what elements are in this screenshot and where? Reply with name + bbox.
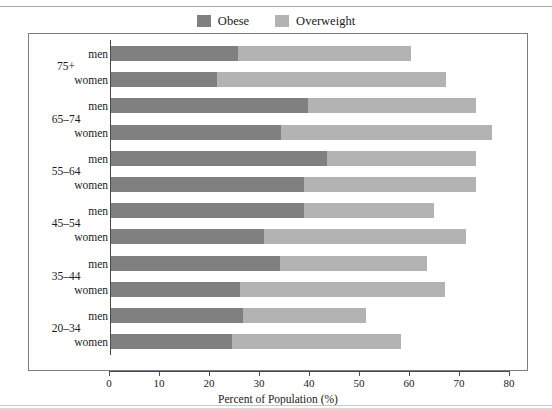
legend-label-overweight: Overweight: [296, 15, 355, 28]
row-label-women: women: [38, 127, 108, 139]
bar-segment-overweight[interactable]: [238, 46, 411, 61]
x-tick: [509, 371, 510, 376]
x-tick-label: 30: [244, 377, 274, 389]
legend-label-obese: Obese: [218, 15, 249, 28]
bar-segment-obese[interactable]: [111, 46, 238, 61]
x-tick-label: 40: [294, 377, 324, 389]
x-tick-label: 20: [194, 377, 224, 389]
bar-segment-obese[interactable]: [111, 177, 304, 192]
row-label-men: men: [38, 310, 108, 322]
x-tick: [209, 371, 210, 376]
bar-segment-obese[interactable]: [111, 98, 308, 113]
legend-swatch-icon-overweight: [275, 15, 289, 27]
bar-row: men: [29, 93, 527, 119]
bar-row: men: [29, 303, 527, 329]
stacked-bar[interactable]: [111, 334, 401, 349]
chart-legend: Obese Overweight: [0, 12, 552, 30]
x-tick: [359, 371, 360, 376]
bar-row: men: [29, 251, 527, 277]
plot-frame: 75+65–7455–6445–5435–4420–34 menwomenmen…: [28, 33, 528, 371]
bar-segment-overweight[interactable]: [327, 151, 476, 166]
bar-row: women: [29, 67, 527, 93]
x-tick: [159, 371, 160, 376]
x-tick: [309, 371, 310, 376]
bar-segment-obese[interactable]: [111, 151, 327, 166]
bar-row: women: [29, 329, 527, 355]
bar-row: men: [29, 146, 527, 172]
bar-row: women: [29, 120, 527, 146]
row-label-men: men: [38, 153, 108, 165]
bar-segment-overweight[interactable]: [280, 256, 427, 271]
bar-segment-overweight[interactable]: [308, 98, 476, 113]
bar-segment-overweight[interactable]: [232, 334, 401, 349]
x-tick-label: 60: [394, 377, 424, 389]
stacked-bar[interactable]: [111, 229, 466, 244]
bar-row: women: [29, 224, 527, 250]
stacked-bar[interactable]: [111, 98, 476, 113]
x-tick: [459, 371, 460, 376]
bar-segment-obese[interactable]: [111, 282, 240, 297]
legend-item-overweight: Overweight: [275, 15, 355, 28]
stacked-bar[interactable]: [111, 308, 366, 323]
x-tick-label: 80: [494, 377, 524, 389]
bar-segment-overweight[interactable]: [281, 125, 492, 140]
legend-swatch-icon-obese: [197, 15, 211, 27]
bar-row: women: [29, 277, 527, 303]
row-label-women: women: [38, 231, 108, 243]
stacked-bar[interactable]: [111, 177, 476, 192]
row-label-women: women: [38, 179, 108, 191]
bar-segment-overweight[interactable]: [243, 308, 366, 323]
x-tick: [409, 371, 410, 376]
bar-row: women: [29, 172, 527, 198]
bar-segment-overweight[interactable]: [304, 203, 434, 218]
top-divider-rule: [0, 6, 552, 7]
bar-segment-overweight[interactable]: [304, 177, 476, 192]
bar-segment-obese[interactable]: [111, 229, 264, 244]
legend-item-obese: Obese: [197, 15, 249, 28]
bar-row: men: [29, 198, 527, 224]
x-tick-label: 70: [444, 377, 474, 389]
bar-segment-overweight[interactable]: [217, 72, 446, 87]
x-tick-label: 10: [144, 377, 174, 389]
row-label-men: men: [38, 258, 108, 270]
bar-rows-container: menwomenmenwomenmenwomenmenwomenmenwomen…: [29, 41, 527, 355]
row-label-women: women: [38, 336, 108, 348]
bar-segment-obese[interactable]: [111, 334, 232, 349]
x-axis-title: Percent of Population (%): [28, 393, 528, 405]
row-label-women: women: [38, 74, 108, 86]
bar-segment-obese[interactable]: [111, 308, 243, 323]
x-tick-label: 50: [344, 377, 374, 389]
bar-segment-overweight[interactable]: [264, 229, 466, 244]
bar-segment-obese[interactable]: [111, 125, 281, 140]
bottom-divider-rule-1: [0, 405, 552, 406]
x-tick: [259, 371, 260, 376]
row-label-men: men: [38, 48, 108, 60]
bar-row: men: [29, 41, 527, 67]
bar-segment-obese[interactable]: [111, 256, 280, 271]
x-tick-label: 0: [94, 377, 124, 389]
stacked-bar[interactable]: [111, 282, 445, 297]
bar-segment-overweight[interactable]: [240, 282, 445, 297]
stacked-bar[interactable]: [111, 125, 492, 140]
stacked-bar[interactable]: [111, 256, 427, 271]
bar-segment-obese[interactable]: [111, 203, 304, 218]
row-label-men: men: [38, 100, 108, 112]
plot-area: 75+65–7455–6445–5435–4420–34 menwomenmen…: [29, 34, 527, 370]
stacked-bar[interactable]: [111, 46, 411, 61]
row-label-women: women: [38, 284, 108, 296]
stacked-bar[interactable]: [111, 151, 476, 166]
stacked-bar[interactable]: [111, 203, 434, 218]
row-label-men: men: [38, 205, 108, 217]
bar-segment-obese[interactable]: [111, 72, 217, 87]
stacked-bar[interactable]: [111, 72, 446, 87]
x-tick: [109, 371, 110, 376]
